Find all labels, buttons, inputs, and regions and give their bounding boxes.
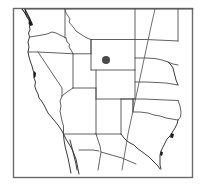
mexico-interior-border-3 bbox=[101, 152, 136, 164]
mexico-interior-border-2 bbox=[79, 150, 99, 151]
oklahoma-kansas-border bbox=[133, 99, 178, 101]
map-figure bbox=[0, 0, 203, 194]
oklahoma-texas-border bbox=[133, 99, 178, 120]
mexico-interior-border bbox=[96, 134, 101, 170]
washington-oregon-border bbox=[30, 32, 67, 38]
gulf-of-california bbox=[70, 140, 77, 170]
nevada-california-border bbox=[38, 52, 62, 96]
oregon-south-border bbox=[28, 52, 73, 54]
oregon-idaho-border bbox=[66, 38, 73, 54]
galveston-bay bbox=[170, 133, 174, 138]
nevada-arizona-notch bbox=[62, 88, 73, 96]
state-boundaries bbox=[22, 9, 193, 174]
texas-gulf-coast bbox=[160, 120, 178, 169]
north-south-dakota-border bbox=[135, 40, 178, 42]
western-us-map bbox=[0, 0, 203, 194]
location-marker-dot[interactable] bbox=[102, 56, 110, 64]
nebraska-kansas-border bbox=[135, 82, 178, 85]
eastern-state-border bbox=[178, 101, 181, 121]
idaho-montana-border bbox=[65, 9, 91, 40]
meridian-line bbox=[122, 9, 155, 170]
south-dakota-nebraska-border bbox=[135, 58, 178, 65]
missouri-river-bend bbox=[168, 62, 178, 85]
pacific-coastline bbox=[25, 9, 64, 134]
